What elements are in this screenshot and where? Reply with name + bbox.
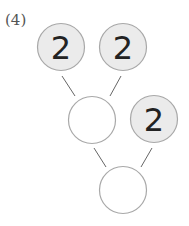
connector-line: [94, 148, 106, 167]
node-value: 2: [144, 101, 164, 139]
connector-line: [110, 76, 121, 96]
node-middle[interactable]: [69, 97, 116, 144]
node-top-left: 2: [38, 24, 85, 71]
number-bond-diagram: 2 2 2: [0, 0, 189, 226]
node-middle-right: 2: [131, 96, 178, 143]
connector-line: [62, 76, 75, 96]
node-bottom[interactable]: [100, 167, 147, 214]
node-value: 2: [113, 29, 133, 67]
node-value: 2: [51, 29, 71, 67]
connector-line: [141, 148, 152, 167]
node-top-right: 2: [100, 24, 147, 71]
